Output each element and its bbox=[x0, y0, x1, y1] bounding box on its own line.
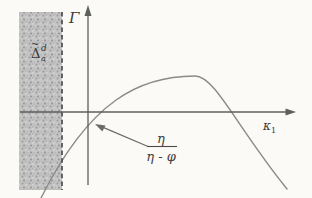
annotation-arrowhead bbox=[95, 124, 106, 132]
region-label-tilde: ~ bbox=[31, 38, 39, 49]
fraction-numerator: η bbox=[157, 131, 165, 146]
shaded-region bbox=[19, 12, 62, 190]
x-axis-label-subscript: 1 bbox=[271, 126, 276, 135]
region-label-subscript: a bbox=[41, 54, 46, 63]
y-axis-arrowhead bbox=[85, 5, 92, 16]
fraction-label: η η - φ bbox=[146, 131, 177, 164]
y-axis-label: Γ bbox=[68, 9, 80, 27]
figure: η η - φ Γ κ1 Δ ~ d a bbox=[0, 0, 312, 198]
x-axis-arrowhead bbox=[286, 109, 297, 116]
region-label-superscript: d bbox=[41, 43, 47, 53]
x-axis-label-base: κ bbox=[262, 119, 271, 133]
annotation-arrow-shaft bbox=[99, 126, 148, 147]
x-axis-label: κ1 bbox=[262, 119, 276, 135]
annotation-arrow bbox=[95, 124, 148, 147]
figure-canvas: η η - φ Γ κ1 Δ ~ d a bbox=[0, 0, 312, 198]
fraction-denominator: η - φ bbox=[146, 149, 176, 164]
